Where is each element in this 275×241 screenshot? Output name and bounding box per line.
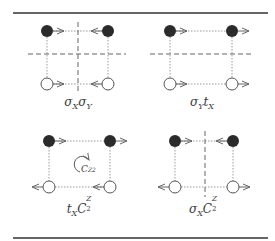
open-atom — [169, 181, 181, 193]
open-atom — [164, 78, 176, 90]
sub-sup: Z2 — [86, 203, 93, 213]
label-tX-C2Z: tXCZ2 — [30, 202, 130, 218]
sub-sup: Z2 — [88, 164, 96, 174]
rotation-label-C2Z: CZ2 — [81, 164, 96, 174]
open-atom — [41, 78, 53, 90]
panel-tX-C2Z — [32, 135, 127, 193]
symbol: C — [203, 202, 212, 216]
open-atom — [104, 181, 116, 193]
superscript: Z — [212, 195, 217, 203]
subscript: X — [208, 102, 214, 111]
open-atom — [226, 78, 238, 90]
symbol: C — [81, 164, 88, 174]
panel-sigmaX-C2Z — [158, 131, 250, 197]
panel-sigmaY-tX — [150, 25, 251, 90]
subscript: Y — [86, 102, 91, 111]
symbol: σ — [64, 95, 72, 109]
filled-atom — [43, 135, 55, 147]
symbol: σ — [189, 202, 197, 216]
open-atom — [102, 78, 114, 90]
filled-atom — [169, 135, 181, 147]
superscript: Z — [86, 195, 91, 203]
subscript: 2 — [212, 205, 216, 213]
label-sigmaY-tX: σYtX — [152, 95, 252, 111]
filled-atom — [226, 25, 238, 37]
label-sigmaX-C2Z: σXCZ2 — [154, 202, 254, 218]
filled-atom — [164, 25, 176, 37]
open-atom — [227, 181, 239, 193]
filled-atom — [227, 135, 239, 147]
filled-atom — [102, 25, 114, 37]
subscript: 2 — [86, 205, 90, 213]
label-sigmaX-sigmaY: σXσY — [28, 95, 128, 111]
filled-atom — [41, 25, 53, 37]
symmetry-operations-figure: σXσY σYtX tXCZ2 σXCZ2 CZ2 — [0, 0, 275, 241]
symbol: C — [77, 202, 86, 216]
open-atom — [43, 181, 55, 193]
subscript: 2 — [92, 166, 96, 173]
symbol: σ — [190, 95, 198, 109]
panel-sigmaX-sigmaY — [28, 22, 126, 94]
sub-sup: Z2 — [212, 203, 219, 213]
filled-atom — [104, 135, 116, 147]
